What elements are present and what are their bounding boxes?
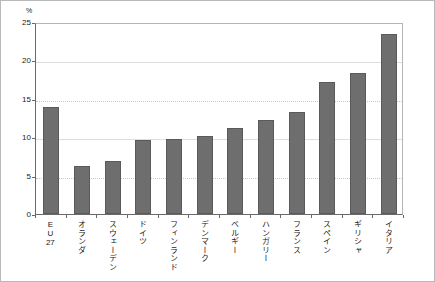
bar-slot [343,24,374,214]
x-tick-mark [158,215,159,218]
x-tick-mark [219,215,220,218]
plot-area [35,23,403,215]
x-category-label: ハンガリー [250,220,281,265]
bar-slot [128,24,159,214]
bar-chart-figure: % 0510152025 EU27オランダスウェーデンドイツフィンランドデンマー… [0,0,435,282]
x-category-label-text: スペイン [322,220,331,254]
y-tick-label-25: 25 [5,19,31,27]
bar[interactable] [289,112,305,214]
x-category-label: EU27 [35,220,66,247]
x-category-label-text: ハンガリー [260,220,269,263]
bar-slot [251,24,282,214]
x-category-label: オランダ [66,220,97,256]
bar[interactable] [197,136,213,214]
bar-slot [36,24,67,214]
x-tick-mark [188,215,189,218]
x-category-label: ギリシャ [342,220,373,256]
x-category-label-text: スウェーデン [107,220,116,271]
x-tick-mark [342,215,343,218]
bar-slot [373,24,404,214]
x-category-label-text: デンマーク [199,220,208,263]
y-tick-label-0: 0 [5,211,31,219]
bar[interactable] [43,107,59,214]
x-category-label: フィンランド [158,220,189,273]
x-tick-mark [403,215,404,218]
bar-slot [97,24,128,214]
bar-slot [159,24,190,214]
x-axis-category-labels: EU27オランダスウェーデンドイツフィンランドデンマークベルギーハンガリーフラン… [35,220,403,278]
x-category-label-text: イタリア [383,220,392,254]
bar-slot [220,24,251,214]
bar[interactable] [135,140,151,214]
bar[interactable] [227,128,243,214]
bar[interactable] [258,120,274,214]
x-tick-mark [372,215,373,218]
bar-slot [189,24,220,214]
bar[interactable] [105,161,121,214]
x-category-label: スペイン [311,220,342,256]
x-category-label-text: ギリシャ [352,220,361,254]
x-tick-mark [127,215,128,218]
x-category-label: スウェーデン [96,220,127,273]
x-category-label-text: オランダ [76,220,85,254]
bar[interactable] [381,34,397,214]
bar-slot [281,24,312,214]
bar-series [36,24,402,214]
x-category-label-text: ベルギー [230,220,239,254]
y-tick-label-15: 15 [5,96,31,104]
x-tick-mark [250,215,251,218]
bar-slot [67,24,98,214]
x-tick-mark [280,215,281,218]
x-tick-mark [96,215,97,218]
x-category-label-text: フランス [291,220,300,254]
y-axis-unit-label: % [26,7,32,15]
x-category-label: デンマーク [188,220,219,265]
bar[interactable] [166,139,182,214]
bar[interactable] [319,82,335,214]
x-category-label-text: ドイツ [138,220,147,246]
y-tick-label-10: 10 [5,134,31,142]
x-category-label-text: EU27 [35,220,66,247]
x-category-label: イタリア [372,220,403,256]
x-tick-mark [311,215,312,218]
x-category-label: ベルギー [219,220,250,256]
x-category-label: ドイツ [127,220,158,248]
bar[interactable] [74,166,90,214]
y-tick-label-5: 5 [5,173,31,181]
x-tick-mark [35,215,36,218]
bar-slot [312,24,343,214]
x-category-label: フランス [280,220,311,256]
x-tick-mark [66,215,67,218]
y-tick-label-20: 20 [5,57,31,65]
x-category-label-text: フィンランド [168,220,177,271]
bar[interactable] [350,73,366,214]
